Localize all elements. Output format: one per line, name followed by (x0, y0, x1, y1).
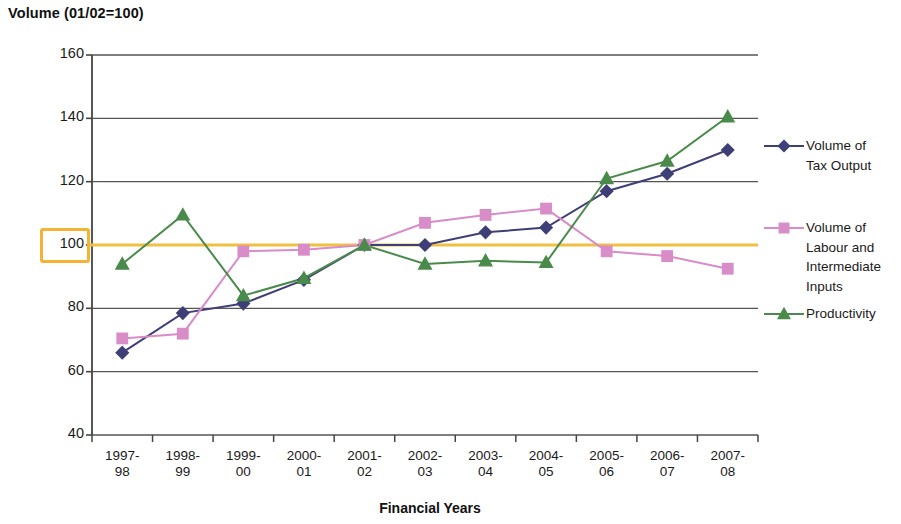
data-point-marker (723, 264, 733, 274)
y-axis-tick-label: 140 (38, 108, 84, 124)
data-point-marker (721, 110, 734, 121)
data-point-marker (662, 251, 672, 261)
data-point-marker (661, 155, 674, 166)
data-point-marker (238, 246, 248, 256)
data-point-marker (117, 333, 127, 343)
legend-marker-svg (762, 219, 806, 237)
data-point-marker (419, 239, 431, 251)
data-point-marker (661, 168, 673, 180)
legend-label: Volume of Tax Output (806, 136, 871, 175)
data-point-marker (116, 347, 128, 359)
chart-container: Volume (01/02=100) 160140120100806040 19… (0, 0, 901, 524)
legend-marker-triangle-icon (762, 305, 806, 323)
x-axis-tick-label: 2007-08 (692, 448, 764, 480)
data-point-marker (601, 246, 611, 256)
legend-marker-square-icon (762, 219, 806, 237)
legend-label: Volume of Labour and Intermediate Inputs (806, 218, 881, 296)
legend-item-volume-of-tax-output: Volume of Tax Output (762, 136, 871, 175)
data-point-marker (540, 222, 552, 234)
y-axis-tick-label: 120 (38, 172, 84, 188)
y-axis-tick-label: 160 (38, 45, 84, 61)
data-point-marker (541, 203, 551, 213)
data-point-marker (299, 245, 309, 255)
legend-marker-svg (762, 137, 806, 155)
y-axis-tick-label: 60 (38, 362, 84, 378)
data-point-marker (176, 209, 189, 220)
data-point-marker (178, 328, 188, 338)
legend-marker-svg (762, 305, 806, 323)
data-point-marker (722, 144, 734, 156)
legend-label: Productivity (806, 304, 876, 324)
x-axis-title: Financial Years (260, 500, 600, 516)
y-axis-tick-label: 80 (38, 298, 84, 314)
data-point-marker (480, 226, 492, 238)
data-point-marker (480, 210, 490, 220)
legend-marker-diamond-icon (762, 137, 806, 155)
base-year-highlight-box (40, 228, 90, 263)
legend-item-volume-of-labour-and-intermediate-inputs: Volume of Labour and Intermediate Inputs (762, 218, 881, 296)
data-point-marker (420, 218, 430, 228)
y-axis-tick-label: 40 (38, 425, 84, 441)
legend-item-productivity: Productivity (762, 304, 876, 324)
data-point-marker (601, 185, 613, 197)
